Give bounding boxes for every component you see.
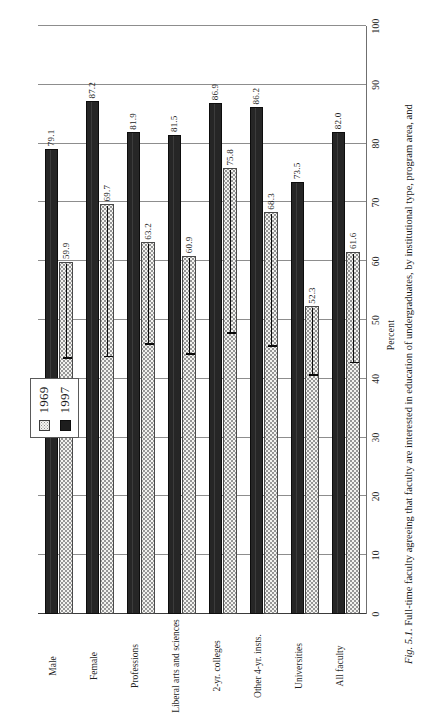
bar-1997 [249, 107, 263, 614]
rule-end-cap [349, 362, 358, 364]
category-label: Male [47, 618, 58, 714]
bar-value-1997: 79.1 [46, 130, 56, 147]
bar-value-1997: 87.2 [87, 82, 97, 99]
axis-tick-label: 30 [371, 433, 381, 443]
figure-number: Fig. 5.1. [403, 628, 414, 664]
bar-group: 81.560.9 [161, 26, 202, 614]
bar-1997 [85, 101, 99, 614]
value-rule [352, 254, 353, 363]
category-label: Universities [293, 618, 304, 714]
bar-value-1997: 73.5 [292, 163, 302, 180]
category-label: Female [88, 618, 99, 714]
bar-1997 [290, 182, 304, 614]
bar-value-1997: 81.9 [128, 113, 138, 130]
axis-tick-label: 80 [371, 139, 381, 149]
value-rule [311, 309, 312, 376]
value-rule [229, 170, 230, 333]
rule-end-cap [267, 345, 276, 347]
bar-value-1969: 75.8 [224, 149, 234, 166]
legend-entry: 1997 [57, 386, 73, 430]
bar-group: 81.963.2 [120, 26, 161, 614]
bar-group: 79.159.9 [38, 26, 79, 614]
chart-legend: 19691997 [30, 378, 79, 437]
axis-tick-label: 40 [371, 374, 381, 384]
value-rule [188, 258, 189, 354]
bar-value-1997: 82.0 [333, 113, 343, 130]
axis-tick-label: 10 [371, 550, 381, 560]
bar-group: 86.268.3 [243, 26, 284, 614]
value-rule [270, 214, 271, 345]
rule-end-cap [103, 356, 112, 358]
figure-body: 79.159.987.269.781.963.281.560.986.975.8… [24, 0, 424, 670]
rule-end-cap [308, 374, 317, 376]
axis-tick-label: 70 [371, 197, 381, 207]
category-label: Other 4-yr. insts. [252, 618, 263, 714]
axis-tick-label: 60 [371, 256, 381, 266]
axis-tick-label: 0 [371, 612, 381, 617]
bar-1997 [167, 135, 181, 614]
axis-tick-label: 100 [371, 19, 381, 34]
legend-swatch-1997 [59, 420, 70, 431]
bar-value-1969: 61.6 [347, 233, 357, 250]
category-label: All faculty [334, 618, 345, 714]
value-rule [106, 206, 107, 356]
axis-tick-label: 90 [371, 80, 381, 90]
bar-value-1997: 86.2 [251, 88, 261, 105]
category-label: 2-yr. colleges [211, 618, 222, 714]
rule-end-cap [144, 343, 153, 345]
bar-group: 86.975.8 [202, 26, 243, 614]
bar-value-1969: 60.9 [183, 237, 193, 254]
plot-area: 79.159.987.269.781.963.281.560.986.975.8… [38, 26, 366, 614]
bar-value-1969: 69.7 [101, 185, 111, 202]
bar-1997 [208, 103, 222, 614]
bar-group: 87.269.7 [79, 26, 120, 614]
bar-value-1969: 52.3 [306, 287, 316, 304]
category-label: Liberal arts and sciences [170, 618, 181, 714]
caption-text: Full-time faculty agreeing that faculty … [403, 104, 414, 625]
legend-label: 1997 [57, 386, 73, 413]
bar-value-1969: 63.2 [142, 223, 152, 240]
axis-tick-label: 50 [371, 315, 381, 325]
legend-entry: 1969 [36, 386, 52, 430]
bar-1997 [126, 132, 140, 614]
bar-value-1997: 86.9 [210, 84, 220, 101]
bar-value-1997: 81.5 [169, 116, 179, 133]
category-label: Professions [129, 618, 140, 714]
axis-tick-label: 20 [371, 491, 381, 501]
figure-caption: Fig. 5.1. Full-time faculty agreeing tha… [402, 104, 415, 664]
bar-group: 82.061.6 [325, 26, 366, 614]
rule-end-cap [62, 357, 71, 359]
bar-1997 [331, 132, 345, 614]
value-axis-title: Percent [386, 320, 396, 351]
bar-group: 73.552.3 [284, 26, 325, 614]
legend-label: 1969 [36, 386, 52, 413]
legend-swatch-1969 [38, 420, 49, 431]
bar-value-1969: 68.3 [265, 193, 275, 210]
rule-end-cap [185, 353, 194, 355]
rule-end-cap [226, 332, 235, 334]
value-rule [65, 264, 66, 358]
bar-value-1969: 59.9 [60, 243, 70, 260]
value-rule [147, 244, 148, 344]
